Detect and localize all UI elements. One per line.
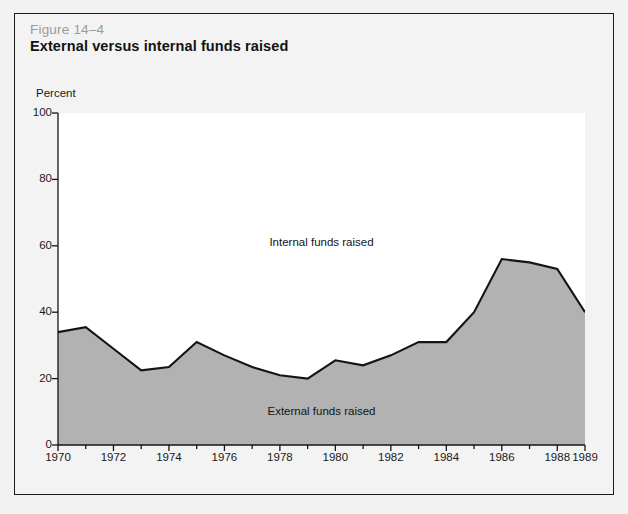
y-tick-label: 80 [39,173,52,185]
figure-container: Figure 14–4 External versus internal fun… [0,0,628,514]
x-tick-label: 1989 [572,452,598,464]
y-tick-label: 20 [39,373,52,385]
external-funds-area [58,259,585,445]
x-tick-label: 1980 [323,452,349,464]
plot-area: Internal funds raised External funds rai… [58,113,585,445]
area-chart-svg [58,113,585,445]
x-tick-label: 1986 [489,452,515,464]
x-axis-tick-labels: 1970197219741976197819801982198419861988… [58,452,585,470]
y-tick-label: 40 [39,306,52,318]
x-tick-label: 1978 [267,452,293,464]
internal-funds-label: Internal funds raised [269,236,373,248]
x-tick-label: 1972 [101,452,127,464]
x-tick-label: 1984 [434,452,460,464]
x-tick-label: 1970 [45,452,71,464]
y-tick-label: 60 [39,240,52,252]
y-axis-title: Percent [36,87,76,99]
y-axis-tick-labels: 020406080100 [26,113,52,445]
x-tick-label: 1976 [212,452,238,464]
figure-number: Figure 14–4 [30,22,104,37]
x-tick-label: 1982 [378,452,404,464]
y-tick-label: 100 [33,107,52,119]
y-tick-label: 0 [46,439,52,451]
x-tick-label: 1988 [544,452,570,464]
external-funds-label: External funds raised [267,405,375,417]
x-tick-label: 1974 [156,452,182,464]
figure-title: External versus internal funds raised [30,38,288,54]
